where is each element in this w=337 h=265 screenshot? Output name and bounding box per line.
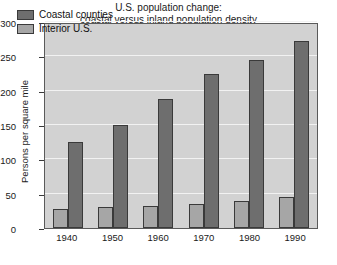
y-axis-tick-label: 300 [0, 18, 16, 29]
y-axis-tick-label: 50 [0, 189, 16, 200]
y-axis-tick-mark [39, 195, 44, 196]
bar-groups [45, 24, 317, 228]
y-axis-tick-label: 200 [0, 86, 16, 97]
bar-group [189, 24, 219, 228]
y-axis-tick-label: 150 [0, 121, 16, 132]
bar-coastal [68, 142, 83, 228]
bar-coastal [204, 74, 219, 228]
x-axis-tick-label: 1940 [47, 232, 87, 243]
bar-group [98, 24, 128, 228]
x-axis: 194019501960197019801990 [44, 232, 318, 243]
bar-interior [143, 206, 158, 228]
x-axis-tick-label: 1980 [229, 232, 269, 243]
legend-swatch [17, 24, 34, 34]
x-axis-tick-label: 1950 [92, 232, 132, 243]
legend-label: Interior U.S. [39, 23, 92, 34]
legend-item: Coastal counties [17, 8, 113, 21]
y-axis-tick-mark [39, 57, 44, 58]
bar-group [279, 24, 309, 228]
bar-interior [98, 207, 113, 228]
y-axis-tick-mark [39, 229, 44, 230]
bar-coastal [294, 41, 309, 228]
bar-coastal [249, 60, 264, 228]
x-axis-tick-label: 1990 [275, 232, 315, 243]
chart-legend: Coastal countiesInterior U.S. [17, 8, 113, 36]
y-axis-tick-label: 250 [0, 52, 16, 63]
bar-coastal [158, 99, 173, 228]
legend-swatch [17, 10, 34, 20]
bar-coastal [113, 125, 128, 228]
bar-interior [53, 209, 68, 228]
bar-group [234, 24, 264, 228]
y-axis-tick-mark [39, 126, 44, 127]
bar-interior [279, 197, 294, 228]
plot-area [44, 23, 318, 229]
y-axis-tick-label: 0 [0, 224, 16, 235]
bar-interior [189, 204, 204, 228]
bar-group [143, 24, 173, 228]
y-axis-tick-label: 100 [0, 155, 16, 166]
y-axis-tick-mark [39, 92, 44, 93]
x-axis-tick-label: 1960 [138, 232, 178, 243]
bar-group [53, 24, 83, 228]
y-axis-tick-mark [39, 23, 44, 24]
chart-figure: U.S. population change: coastal versus i… [0, 0, 337, 265]
bar-interior [234, 201, 249, 228]
y-axis-tick-mark [39, 160, 44, 161]
x-axis-tick-label: 1970 [184, 232, 224, 243]
legend-item: Interior U.S. [17, 22, 113, 35]
legend-label: Coastal counties [39, 9, 113, 20]
y-axis-label: Persons per square mile [19, 47, 30, 217]
